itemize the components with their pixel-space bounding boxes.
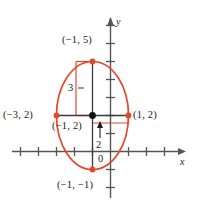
label-center-point: (−1, 2) xyxy=(52,121,82,132)
point-marker-bottom-vertex xyxy=(90,167,96,173)
point-marker-center xyxy=(89,112,96,119)
ellipse-graph-figure: (−1, 5) (−1, −1) (−3, 2) (1, 2) (−1, 2) … xyxy=(0,0,197,209)
point-marker-top-vertex xyxy=(90,59,96,65)
label-right-vertex: (1, 2) xyxy=(133,110,157,121)
semi-minor-arrowhead xyxy=(97,121,103,128)
label-semi-minor-measure: 2 xyxy=(96,140,101,151)
label-y-axis: y xyxy=(116,17,121,27)
graph-canvas xyxy=(0,0,197,209)
label-semi-major-measure: 3 xyxy=(68,83,73,94)
label-origin: 0 xyxy=(98,154,103,165)
x-axis-arrowhead xyxy=(178,148,186,155)
axes-group xyxy=(12,18,178,198)
label-left-vertex: (−3, 2) xyxy=(3,110,33,121)
point-marker-left-vertex xyxy=(54,113,60,119)
label-bottom-vertex: (−1, −1) xyxy=(57,180,93,191)
y-axis-arrowhead xyxy=(107,17,114,26)
point-marker-right-vertex xyxy=(126,113,132,119)
label-top-vertex: (−1, 5) xyxy=(62,35,92,46)
label-x-axis: x xyxy=(180,157,185,167)
